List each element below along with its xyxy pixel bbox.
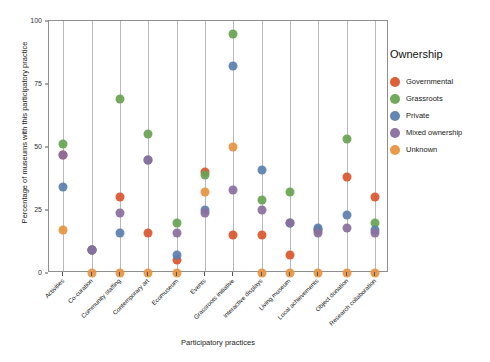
legend-label: Grassroots [406,94,443,103]
data-point [200,170,209,179]
data-point [342,173,351,182]
y-tick-label: 75 [34,80,48,87]
data-point [257,195,266,204]
data-point [285,188,294,197]
x-tick [346,272,347,276]
legend-title: Ownership [390,48,490,60]
data-point [144,130,153,139]
y-tick-label: 0 [38,269,48,276]
legend-label: Private [406,111,429,120]
legend-label: Unknown [406,145,437,154]
data-point [200,208,209,217]
legend-item-mixed-ownership[interactable]: Mixed ownership [390,124,490,141]
data-point [342,135,351,144]
data-point [257,231,266,240]
x-tick-label: Co-curation [66,277,94,305]
legend-label: Mixed ownership [406,128,462,137]
plot-area [48,20,388,272]
data-point [115,208,124,217]
legend-item-private[interactable]: Private [390,107,490,124]
x-tick [261,272,262,276]
data-point [229,231,238,240]
x-tick [147,272,148,276]
data-point [229,29,238,38]
legend-label: Governmental [406,77,453,86]
data-point [229,185,238,194]
x-tick [204,272,205,276]
x-tick-label: Activities [43,277,65,299]
gridline-object-donation [347,21,348,271]
data-point [370,193,379,202]
legend-items: GovernmentalGrassrootsPrivateMixed owner… [390,73,490,158]
data-point [144,228,153,237]
gridline-events [205,21,206,271]
legend-swatch-icon [390,94,400,104]
x-tick-label: Events [188,277,206,295]
x-tick [374,272,375,276]
gridline-co-curation [92,21,93,271]
data-point [257,206,266,215]
x-axis-title: Participatory practices [48,338,388,347]
y-tick-label: 25 [34,206,48,213]
data-point [172,251,181,260]
data-point [172,218,181,227]
data-point [257,165,266,174]
data-point [59,183,68,192]
legend-item-governmental[interactable]: Governmental [390,73,490,90]
data-point [285,251,294,260]
y-axis-title: Percentage of museums with this particip… [20,23,29,243]
gridline-living-museum [290,21,291,271]
legend-swatch-icon [390,145,400,155]
data-point [200,188,209,197]
x-tick [317,272,318,276]
chart-figure: 0255075100 Percentage of museums with th… [0,0,490,362]
x-tick-label: Research collaboration [327,277,377,327]
data-point [144,155,153,164]
legend-swatch-icon [390,111,400,121]
x-tick [119,272,120,276]
y-tick-label: 100 [30,17,48,24]
data-point [370,228,379,237]
data-point [115,95,124,104]
x-tick [176,272,177,276]
x-tick [289,272,290,276]
data-point [229,62,238,71]
data-point [59,140,68,149]
data-point [115,193,124,202]
legend-item-grassroots[interactable]: Grassroots [390,90,490,107]
legend-swatch-icon [390,77,400,87]
data-point [115,228,124,237]
data-point [342,211,351,220]
data-point [172,228,181,237]
data-point [314,228,323,237]
data-point [285,218,294,227]
x-tick-label: Ecomuseum [150,277,179,306]
data-point [59,150,68,159]
x-tick [62,272,63,276]
legend-swatch-icon [390,128,400,138]
data-point [59,226,68,235]
data-point [342,223,351,232]
data-point [87,246,96,255]
x-axis-labels: ActivitiesCo-curationCommunity staffingC… [48,277,388,337]
data-point [229,143,238,152]
legend: Ownership GovernmentalGrassrootsPrivateM… [390,48,490,158]
x-tick [91,272,92,276]
y-tick-label: 50 [34,143,48,150]
legend-item-unknown[interactable]: Unknown [390,141,490,158]
x-tick [232,272,233,276]
